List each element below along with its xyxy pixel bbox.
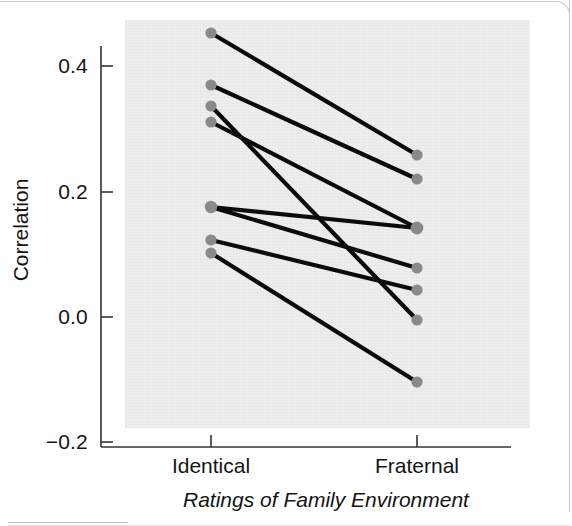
data-point-identical xyxy=(205,201,217,213)
slope-line xyxy=(211,240,417,290)
data-point-fraternal xyxy=(411,284,422,295)
data-point-identical xyxy=(205,247,216,258)
slope-line xyxy=(211,253,417,382)
x-axis-ticks xyxy=(211,435,417,447)
slope-line xyxy=(211,85,417,179)
data-point-fraternal xyxy=(411,262,422,273)
data-point-identical xyxy=(205,234,216,245)
y-tick-label-3: −0.2 xyxy=(8,430,88,454)
data-point-identical xyxy=(205,79,216,90)
data-point-fraternal xyxy=(411,314,422,325)
chart-figure: 0.4 0.2 0.0 −0.2 Identical Fraternal Cor… xyxy=(0,0,572,526)
page-root: 0.4 0.2 0.0 −0.2 Identical Fraternal Cor… xyxy=(0,0,572,526)
y-axis-title: Correlation xyxy=(9,135,33,325)
data-point-fraternal xyxy=(411,222,424,235)
data-point-fraternal xyxy=(411,376,422,387)
y-tick-label-0: 0.4 xyxy=(8,54,88,78)
x-axis-title: Ratings of Family Environment xyxy=(116,488,536,512)
x-tick-label-identical: Identical xyxy=(121,454,301,478)
x-tick-label-fraternal: Fraternal xyxy=(327,454,507,478)
data-points xyxy=(205,27,424,387)
data-point-identical xyxy=(205,100,216,111)
data-point-fraternal xyxy=(411,173,422,184)
slope-lines xyxy=(211,33,417,382)
y-axis-ticks xyxy=(101,66,113,442)
axis-lines xyxy=(101,46,511,447)
data-point-fraternal xyxy=(411,149,422,160)
data-point-identical xyxy=(205,27,216,38)
data-point-identical xyxy=(205,116,216,127)
